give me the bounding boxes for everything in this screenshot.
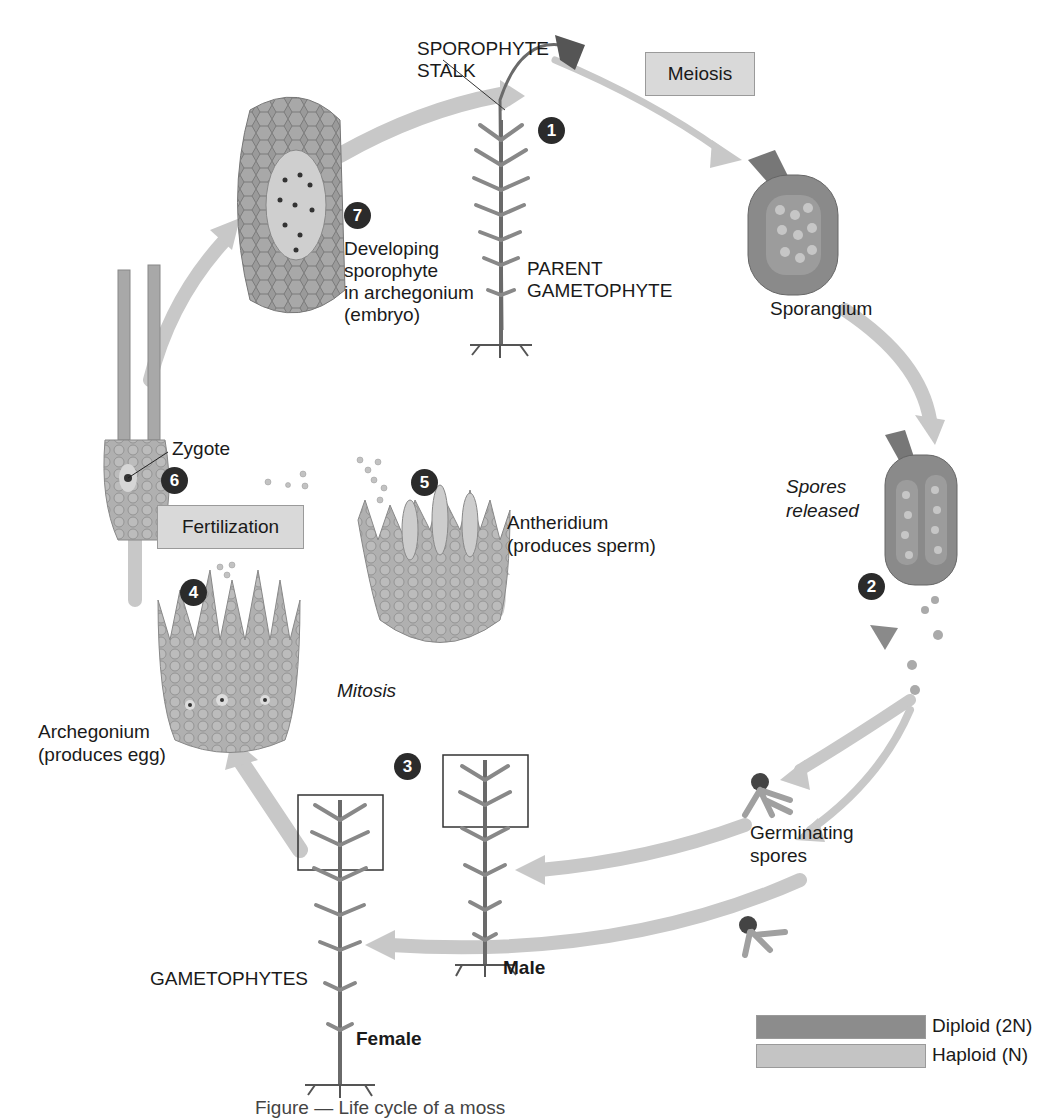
label-parent-gametophyte: GAMETOPHYTE xyxy=(527,280,672,302)
step-6-badge: 6 xyxy=(161,467,188,494)
legend-label-haploid: Haploid (N) xyxy=(932,1044,1028,1066)
label-parent: PARENT xyxy=(527,258,603,280)
figure-caption: Figure — Life cycle of a moss xyxy=(255,1097,505,1119)
step-5-badge: 5 xyxy=(411,469,438,496)
zygote-archegonium-illustration xyxy=(104,265,169,540)
archegonium-illustration xyxy=(158,570,300,753)
embryo-archegonium-illustration xyxy=(238,97,346,313)
sporangium-illustration xyxy=(748,150,838,295)
legend-swatch-haploid xyxy=(756,1044,926,1068)
label-produces-sperm: (produces sperm) xyxy=(507,535,656,557)
label-antheridium: Antheridium xyxy=(507,512,608,534)
label-produces-egg: (produces egg) xyxy=(38,744,166,766)
step-4-badge: 4 xyxy=(180,579,207,606)
step-2-badge: 2 xyxy=(858,573,885,600)
label-spores-germ: spores xyxy=(750,845,807,867)
label-stalk: STALK xyxy=(417,60,476,82)
label-germinating: Germinating xyxy=(750,822,854,844)
label-sporophyte: SPOROPHYTE xyxy=(417,38,549,60)
step-3-badge: 3 xyxy=(394,753,421,780)
fertilization-box: Fertilization xyxy=(157,505,304,549)
label-sporangium: Sporangium xyxy=(770,298,872,320)
legend-label-diploid: Diploid (2N) xyxy=(932,1015,1032,1037)
legend-swatch-diploid xyxy=(756,1015,926,1039)
label-archegonium: Archegonium xyxy=(38,721,150,743)
label-sporophyte-embryo: sporophyte xyxy=(344,260,438,282)
open-sporangium-illustration xyxy=(870,430,957,695)
label-embryo: (embryo) xyxy=(344,304,420,326)
antheridium-illustration xyxy=(358,485,510,643)
label-gametophytes: GAMETOPHYTES xyxy=(150,968,308,990)
label-female: Female xyxy=(356,1028,421,1050)
label-zygote: Zygote xyxy=(172,438,230,460)
label-released: released xyxy=(786,500,859,522)
label-in-archegonium: in archegonium xyxy=(344,282,474,304)
meiosis-box: Meiosis xyxy=(645,52,755,96)
label-developing: Developing xyxy=(344,238,439,260)
step-7-badge: 7 xyxy=(344,202,371,229)
label-male: Male xyxy=(503,957,545,979)
parent-gametophyte-illustration xyxy=(470,35,585,358)
label-spores: Spores xyxy=(786,476,846,498)
label-mitosis: Mitosis xyxy=(337,680,396,702)
step-1-badge: 1 xyxy=(538,117,565,144)
